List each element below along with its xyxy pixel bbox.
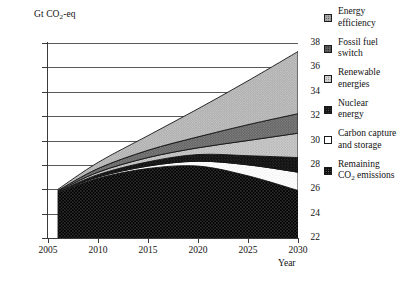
plot-wrapper: Gt CO2-eq 383634323028262422 20052010201… [0, 0, 320, 284]
legend-item[interactable]: Carbon capture and storage [324, 128, 418, 151]
x-tick [248, 238, 249, 243]
legend-item[interactable]: Renewable energies [324, 67, 418, 90]
x-tick-label: 2005 [39, 245, 58, 255]
x-tick [48, 238, 49, 243]
legend-item[interactable]: Remaining CO2 emissions [324, 159, 418, 183]
chart-legend: Energy efficiencyFossil fuel switchRenew… [324, 6, 418, 190]
x-tick [148, 238, 149, 243]
x-axis-title: Year [278, 258, 296, 268]
y-axis-title: Gt CO2-eq [34, 9, 76, 19]
legend-item-label: Carbon capture and storage [338, 128, 396, 151]
stacked-area-chart [48, 43, 298, 238]
x-tick-label: 2010 [89, 245, 108, 255]
legend-swatch-icon [324, 75, 332, 83]
legend-swatch-icon [324, 136, 332, 144]
x-tick-label: 2015 [139, 245, 158, 255]
y-axis-title-subscript: 2 [60, 13, 64, 21]
legend-item-label: Fossil fuel switch [338, 37, 378, 60]
x-tick-label: 2030 [289, 245, 308, 255]
legend-item-label: Remaining CO2 emissions [338, 159, 395, 183]
legend-item-label: Renewable energies [338, 67, 380, 90]
legend-swatch-icon [324, 45, 332, 53]
legend-item-label: Nuclear energy [338, 98, 368, 121]
legend-swatch-icon [324, 167, 332, 175]
legend-swatch-icon [324, 106, 332, 114]
y-axis-title-main: Gt CO [34, 9, 60, 19]
x-tick [298, 238, 299, 243]
x-tick-label: 2025 [239, 245, 258, 255]
legend-item[interactable]: Energy efficiency [324, 6, 418, 29]
legend-item-label: Energy efficiency [338, 6, 376, 29]
legend-swatch-icon [324, 14, 332, 22]
legend-item[interactable]: Fossil fuel switch [324, 37, 418, 60]
legend-label-subscript: 2 [351, 174, 355, 182]
legend-item[interactable]: Nuclear energy [324, 98, 418, 121]
x-tick [198, 238, 199, 243]
x-axis-line [47, 238, 299, 239]
x-tick-label: 2020 [189, 245, 208, 255]
x-tick [98, 238, 99, 243]
y-axis-title-tail: -eq [63, 9, 75, 19]
chart-root: Gt CO2-eq 383634323028262422 20052010201… [0, 0, 418, 284]
